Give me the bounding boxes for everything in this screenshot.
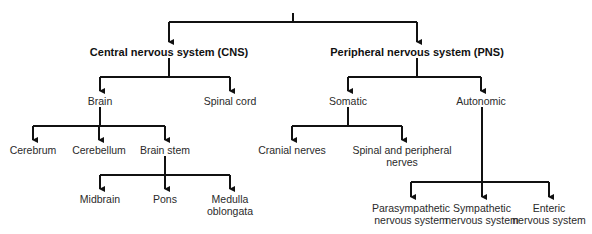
node-line: Enteric [512, 202, 586, 214]
node-line: nervous system [512, 214, 586, 226]
node-line: oblongata [207, 205, 253, 217]
node-line: nervous system [372, 214, 450, 226]
node-midbrain: Midbrain [80, 193, 120, 205]
node-autonomic: Autonomic [456, 95, 506, 107]
node-cerebrum: Cerebrum [10, 144, 57, 156]
node-cns: Central nervous system (CNS) [90, 46, 248, 58]
node-somatic: Somatic [329, 95, 367, 107]
node-line: Medulla [207, 193, 253, 205]
node-line: Spinal and peripheral [352, 144, 451, 156]
node-spinal-peripheral-nerves: Spinal and peripheral nerves [352, 144, 451, 168]
node-medulla-oblongata: Medulla oblongata [207, 193, 253, 217]
node-line: nervous system [445, 214, 519, 226]
node-line: Parasympathetic [372, 202, 450, 214]
node-sympathetic: Sympathetic nervous system [445, 202, 519, 226]
node-line: Sympathetic [445, 202, 519, 214]
node-enteric: Enteric nervous system [512, 202, 586, 226]
node-line: nerves [352, 156, 451, 168]
node-cerebellum: Cerebellum [72, 144, 126, 156]
node-brain-stem: Brain stem [140, 144, 190, 156]
node-cranial-nerves: Cranial nerves [258, 144, 326, 156]
node-pns: Peripheral nervous system (PNS) [330, 46, 504, 58]
node-pons: Pons [153, 193, 177, 205]
node-parasympathetic: Parasympathetic nervous system [372, 202, 450, 226]
node-spinal-cord: Spinal cord [204, 95, 257, 107]
node-brain: Brain [88, 95, 113, 107]
